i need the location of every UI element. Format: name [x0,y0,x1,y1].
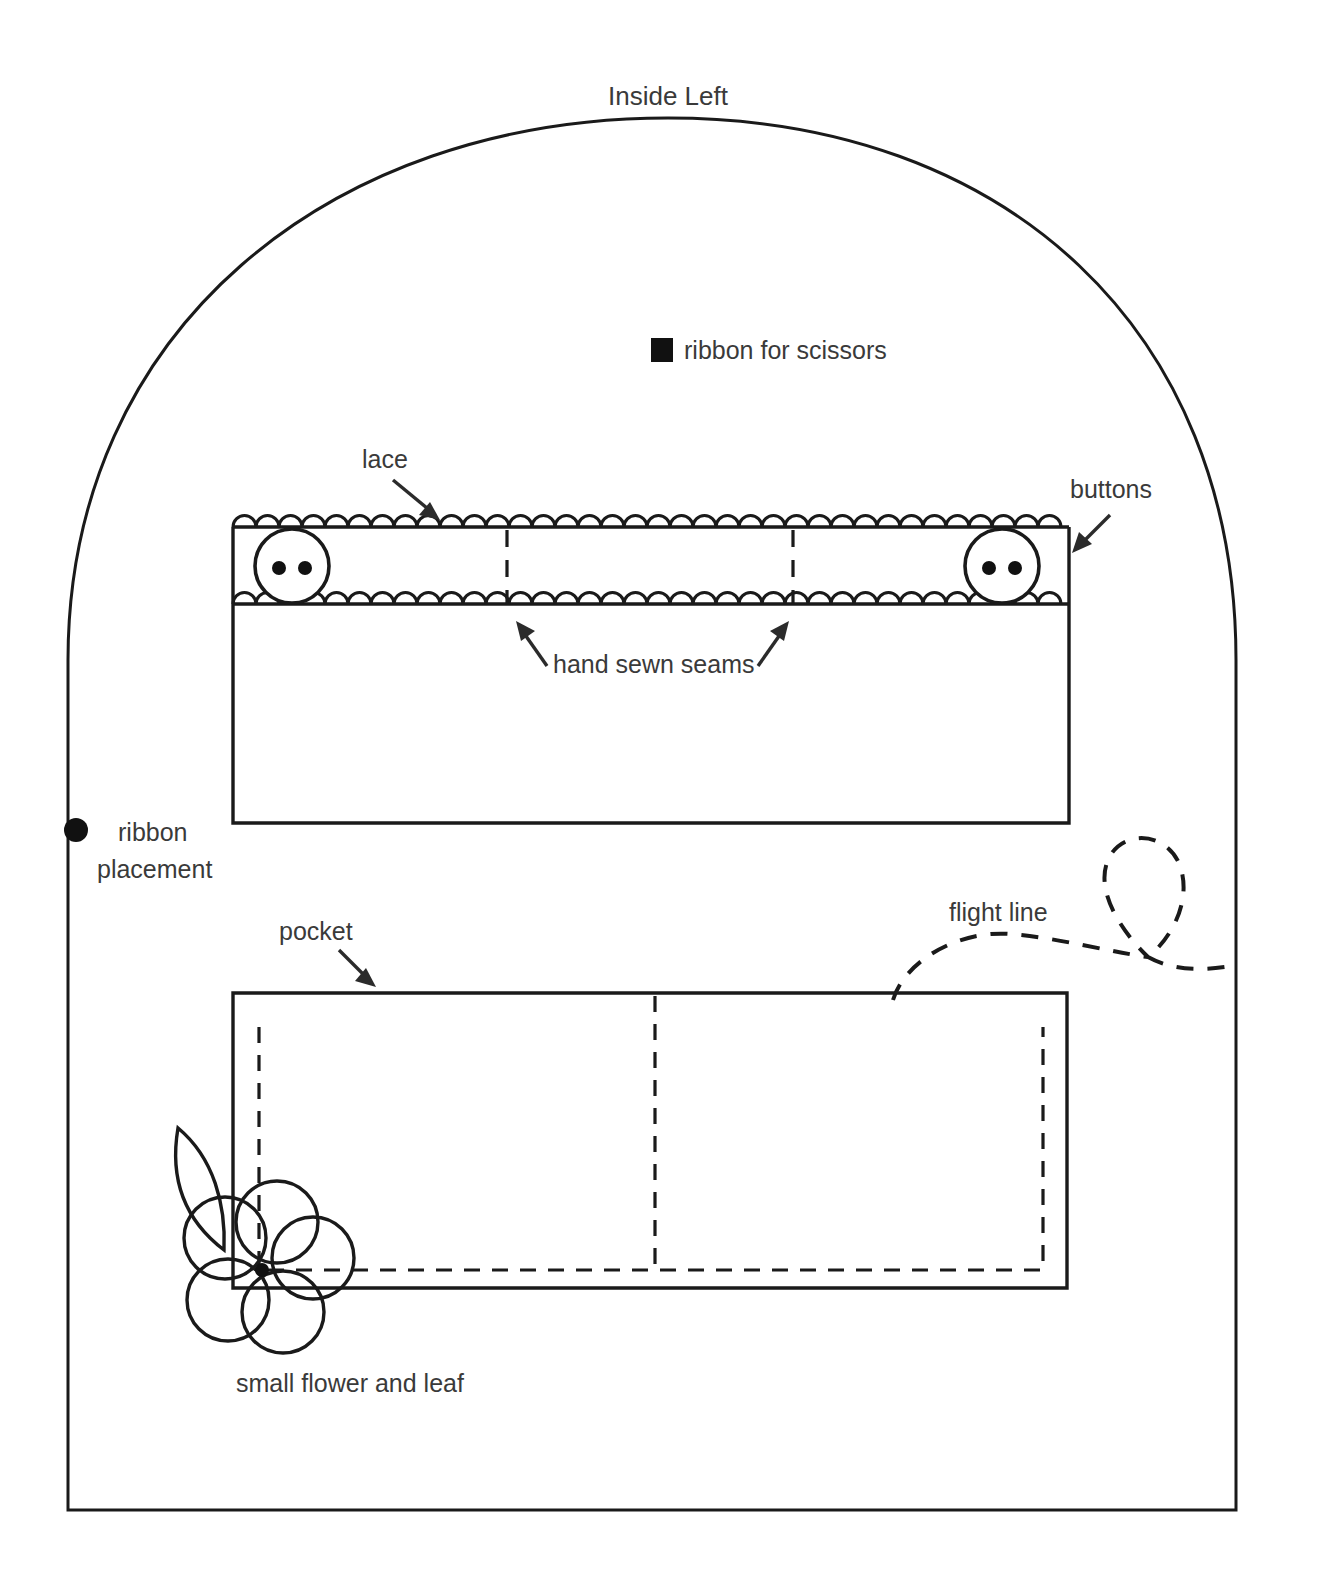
lace-arrow [393,480,440,520]
hand-sewn-seams-arrow-right [758,621,789,666]
hand-sewn-seams-arrow-left [516,621,547,666]
petal-5 [242,1271,324,1353]
annotation-label-flight-line: flight line [949,898,1048,926]
annotation-label-hand-sewn-seams: hand sewn seams [553,650,755,678]
filled-circle-marker [64,818,88,842]
pocket-panel-body [233,993,1067,1288]
legend-label-ribbon-for-scissors: ribbon for scissors [684,336,887,364]
annotation-label-lace: lace [362,445,408,473]
annotation-label-pocket: pocket [279,917,353,945]
pocket-stitch-line [259,1027,1043,1270]
flight-line-path [893,838,1232,1000]
legend-label-ribbon-placement-line1: ribbon [118,818,188,846]
button-right [965,529,1039,603]
lace-trim-top [233,516,1061,528]
buttons-arrow [1072,515,1110,553]
sewing-pattern-diagram: Inside Left ribbon for scissors ribbon p… [0,0,1337,1596]
button-left [255,529,329,603]
pattern-canvas: Inside Left ribbon for scissors ribbon p… [0,0,1337,1596]
lace-trim-bottom [233,593,1061,605]
annotation-label-small-flower-and-leaf: small flower and leaf [236,1369,464,1397]
page-title: Inside Left [608,81,729,111]
pocket-arrow [339,950,376,987]
flower-center-dot [255,1263,269,1277]
filled-square-marker [651,338,673,362]
small-flower-and-leaf-graphic [176,1128,354,1353]
legend-label-ribbon-placement-line2: placement [97,855,212,883]
annotation-label-buttons: buttons [1070,475,1152,503]
